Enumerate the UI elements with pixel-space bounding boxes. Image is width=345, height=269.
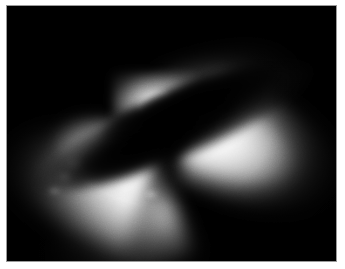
screenshot-root	[0, 0, 345, 269]
film-grain-overlay	[7, 6, 336, 261]
image-frame	[6, 5, 337, 262]
astronomy-image	[7, 6, 336, 261]
